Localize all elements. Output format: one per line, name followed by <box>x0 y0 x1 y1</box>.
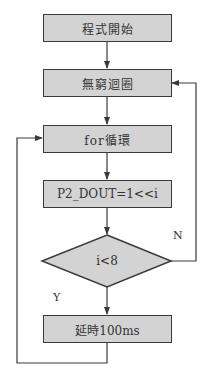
node-delay: 延時100ms <box>43 315 172 343</box>
edge-label-yes: Y <box>53 291 60 304</box>
node-label: for循環 <box>84 131 130 148</box>
node-label: P2_DOUT=1<<i <box>57 187 158 201</box>
node-output-assignment: P2_DOUT=1<<i <box>43 180 172 208</box>
decision-label: i<8 <box>96 254 118 268</box>
node-label: 無窮迴圈 <box>82 75 134 92</box>
node-program-start: 程式開始 <box>43 14 172 42</box>
node-label: 程式開始 <box>82 20 134 37</box>
node-infinite-loop: 無窮迴圈 <box>43 69 172 97</box>
node-label: 延時100ms <box>75 321 139 338</box>
node-for-loop: for循環 <box>43 125 172 153</box>
edge-label-no: N <box>173 229 183 242</box>
